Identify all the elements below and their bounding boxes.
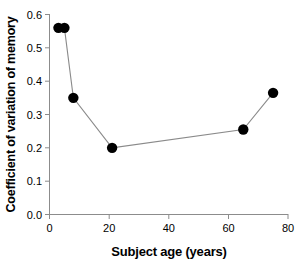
data-point (107, 143, 117, 153)
data-point (59, 23, 69, 33)
chart-figure: Coefficient of variation of memory 0.6 0… (0, 0, 307, 277)
y-tick-label: 0.3 (27, 109, 42, 121)
data-series-markers (53, 23, 278, 153)
y-tick-label: 0.5 (27, 42, 42, 54)
x-axis-title: Subject age (years) (49, 244, 289, 259)
y-tick-label: 0.6 (27, 9, 42, 21)
y-axis-ticks (45, 15, 49, 215)
x-tick-label: 60 (222, 222, 234, 234)
data-point (68, 93, 78, 103)
x-tick-label: 40 (163, 222, 175, 234)
scatter-plot-canvas: 0.6 0.5 0.4 0.3 0.2 0.1 0.0 0 20 40 60 8… (0, 0, 307, 277)
data-point (238, 124, 248, 134)
y-tick-label: 0.2 (27, 142, 42, 154)
x-tick-label: 0 (46, 222, 52, 234)
x-tick-label: 20 (103, 222, 115, 234)
y-tick-label: 0.0 (27, 209, 42, 221)
x-tick-label: 80 (282, 222, 294, 234)
data-point (268, 88, 278, 98)
y-tick-label: 0.4 (27, 75, 42, 87)
y-tick-label: 0.1 (27, 175, 42, 187)
